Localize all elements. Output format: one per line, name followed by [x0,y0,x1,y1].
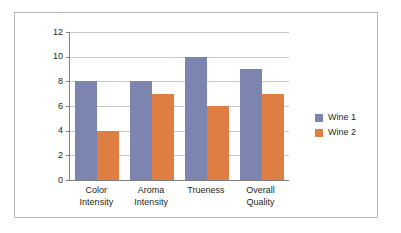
x-axis-category-label: Aroma Intensity [124,185,179,208]
y-axis-tick [66,180,70,181]
bar [207,106,229,180]
plot-area [69,32,289,181]
bar [262,94,284,180]
bars-layer [70,32,289,180]
chart-frame: 121086420 Color IntensityAroma Intensity… [14,12,378,218]
bar [130,81,152,180]
y-axis-tick-labels: 121086420 [37,32,63,181]
legend-label: Wine 1 [328,113,356,122]
legend-item: Wine 2 [315,126,377,139]
x-axis-category-label: Trueness [179,185,234,197]
bar [185,57,207,180]
y-axis-tick-label: 6 [58,102,63,111]
x-axis-category-labels: Color IntensityAroma IntensityTruenessOv… [69,185,289,217]
x-axis-category-label: Color Intensity [69,185,124,208]
bar [97,131,119,180]
legend-swatch-icon [315,129,323,137]
chart-legend: Wine 1Wine 2 [315,111,377,141]
bar [240,69,262,180]
y-axis-tick-label: 10 [53,52,63,61]
legend-swatch-icon [315,114,323,122]
y-axis-tick-label: 0 [58,176,63,185]
y-axis-tick-label: 2 [58,151,63,160]
y-axis-tick-label: 4 [58,126,63,135]
bar [75,81,97,180]
y-axis-tick-label: 12 [53,28,63,37]
plot-wrapper: 121086420 Color IntensityAroma Intensity… [15,13,377,217]
y-axis-tick-label: 8 [58,77,63,86]
legend-item: Wine 1 [315,111,377,124]
legend-label: Wine 2 [328,128,356,137]
x-axis-category-label: Overall Quality [233,185,288,208]
bar [152,94,174,180]
